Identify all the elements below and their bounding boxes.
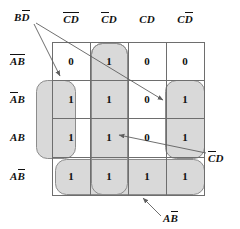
row-header-3-bar-part: B [18, 170, 26, 182]
cell-r3c3: 1 [166, 170, 204, 182]
column-header-2-text: CD [139, 13, 155, 25]
column-header-3-plain: C [177, 13, 185, 25]
cell-r1c2: 0 [128, 93, 166, 105]
cell-r0c1: 1 [90, 55, 128, 67]
cell-r3c2: 1 [128, 170, 166, 182]
column-header-1-plain: D [109, 13, 117, 25]
cell-r2c2: 0 [128, 131, 166, 143]
row-header-0: AB [10, 55, 48, 67]
karnaugh-map-diagram: CD CD CD CD AB AB AB AB 0 1 0 0 1 1 0 1 … [0, 0, 240, 229]
cell-r2c0: 1 [52, 131, 90, 143]
column-header-3-bar-part: D [185, 13, 193, 25]
row-header-3: AB [10, 170, 48, 182]
arrow-bd-not-to-left-group [34, 24, 60, 76]
annotation-ab-not-bar-part: B [171, 212, 179, 224]
annotation-c-not-d-plain: D [216, 152, 224, 164]
annotation-bd-not-plain: B [14, 11, 22, 23]
row-header-2: AB [10, 131, 48, 143]
cell-r0c2: 0 [128, 55, 166, 67]
column-header-0: CD [52, 13, 90, 25]
row-header-1: AB [10, 93, 48, 105]
cell-r2c1: 1 [90, 131, 128, 143]
row-header-1-plain: B [18, 93, 26, 105]
column-header-3: CD [166, 13, 204, 25]
cell-r3c1: 1 [90, 170, 128, 182]
row-header-2-text: AB [10, 131, 25, 143]
cell-r0c0: 0 [52, 55, 90, 67]
row-header-3-plain: A [10, 170, 18, 182]
annotation-ab-not-plain: A [163, 212, 171, 224]
cell-r2c3: 1 [166, 131, 204, 143]
annotation-c-not-d-bar-part: C [208, 152, 216, 164]
column-header-1-bar-part: C [101, 13, 109, 25]
annotation-c-not-d: CD [208, 152, 224, 164]
row-header-0-text: AB [10, 55, 25, 67]
column-header-0-text: CD [63, 13, 79, 25]
annotation-bd-not: BD [14, 11, 30, 23]
arrow-ab-not-to-row-group [143, 198, 161, 216]
annotation-ab-not: AB [163, 212, 178, 224]
row-header-1-bar-part: A [10, 93, 18, 105]
column-header-2: CD [128, 13, 166, 25]
callout-arrows-layer [0, 0, 240, 229]
cell-r1c0: 1 [52, 93, 90, 105]
cell-r1c3: 1 [166, 93, 204, 105]
cell-r0c3: 0 [166, 55, 204, 67]
column-header-1: CD [90, 13, 128, 25]
annotation-bd-not-bar-part: D [22, 11, 30, 23]
cell-r3c0: 1 [52, 170, 90, 182]
cell-r1c1: 1 [90, 93, 128, 105]
